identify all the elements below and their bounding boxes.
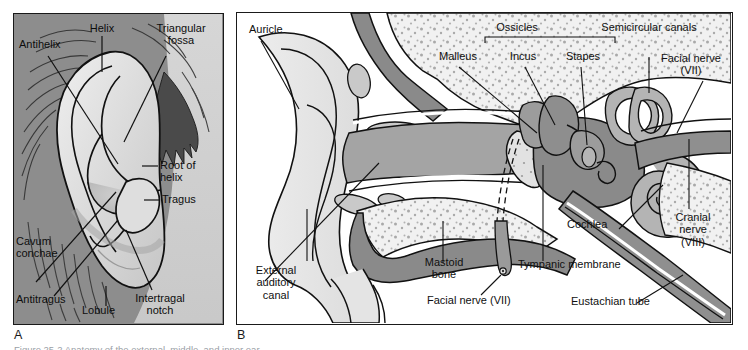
label-incus: Incus bbox=[495, 50, 551, 62]
label-cranial-nerve-viii: Cranial nerve (VIII) bbox=[661, 211, 725, 248]
label-facial-nerve-vii-top: Facial nerve (VII) bbox=[651, 52, 731, 77]
label-semicircular-canals: Semicircular canals bbox=[578, 21, 720, 33]
label-lobule: Lobule bbox=[82, 304, 115, 316]
label-tragus: Tragus bbox=[162, 193, 196, 205]
label-antitragus: Antitragus bbox=[16, 293, 66, 305]
ear-anatomy-figure: Antihelix Helix Triangular fossa Root of… bbox=[0, 0, 748, 350]
label-mastoid-bone: Mastoid bone bbox=[415, 256, 473, 281]
label-ossicles: Ossicles bbox=[462, 21, 572, 33]
label-auricle: Auricle bbox=[249, 23, 283, 35]
label-malleus: Malleus bbox=[425, 50, 491, 62]
label-eustachian-tube: Eustachian tube bbox=[571, 295, 650, 307]
panel-b-ear-cross-section: Auricle Ossicles Malleus Incus Stapes Se… bbox=[236, 12, 733, 325]
label-stapes: Stapes bbox=[552, 50, 614, 62]
panel-letter-a: A bbox=[14, 328, 23, 342]
label-antihelix: Antihelix bbox=[19, 38, 61, 50]
label-intertragal-notch: Intertragal notch bbox=[124, 292, 196, 317]
panel-letter-b: B bbox=[237, 328, 246, 342]
label-external-auditory-canal: External auditory canal bbox=[240, 264, 312, 301]
label-triangular-fossa: Triangular fossa bbox=[144, 22, 218, 47]
label-helix: Helix bbox=[72, 22, 132, 34]
label-root-of-helix: Root of helix bbox=[160, 159, 195, 184]
label-cavum-conchae: Cavum conchae bbox=[16, 235, 58, 260]
figure-caption: Figure 25-2 Anatomy of the external, mid… bbox=[14, 344, 734, 350]
label-cochlea: Cochlea bbox=[567, 218, 607, 230]
label-tympanic-membrane: Tympanic membrane bbox=[518, 258, 621, 270]
label-facial-nerve-vii: Facial nerve (VII) bbox=[427, 294, 511, 306]
panel-a-external-ear: Antihelix Helix Triangular fossa Root of… bbox=[13, 13, 224, 325]
